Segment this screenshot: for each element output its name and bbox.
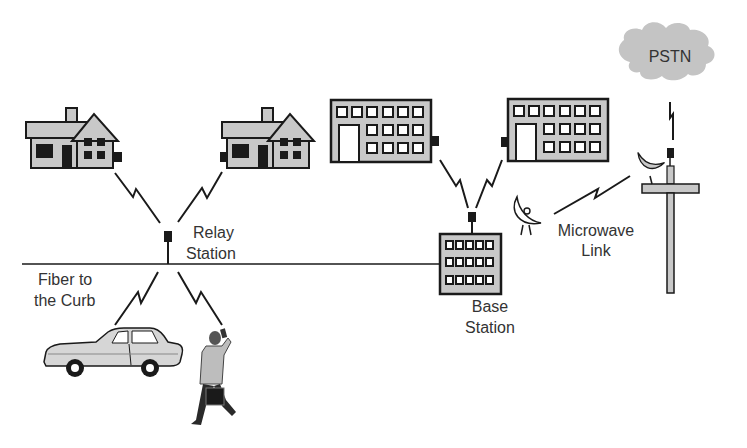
fiber-label-line2: the Curb — [34, 292, 95, 309]
wireless-link-car — [115, 272, 158, 325]
base-station-icon — [440, 212, 501, 294]
network-diagram: Relay Station Fiber to the Curb — [0, 0, 747, 448]
wireless-link-office-right — [476, 160, 502, 208]
wireless-link-office-left — [440, 160, 468, 208]
microwave-link-line — [554, 176, 630, 214]
fiber-label-line1: Fiber to — [38, 271, 92, 288]
wireless-link-house-right — [178, 172, 222, 222]
relay-station-label-line1: Relay — [193, 224, 234, 241]
microwave-tower-icon — [636, 144, 699, 293]
base-station-label-line1: Base — [472, 298, 509, 315]
house-left-icon — [26, 108, 122, 168]
office-building-left-icon — [331, 100, 431, 162]
person-with-phone-icon — [191, 328, 236, 425]
wireless-link-person — [178, 272, 222, 325]
wireless-link-pstn — [670, 102, 673, 140]
relay-antenna-icon — [164, 231, 172, 264]
house-right-icon — [220, 108, 314, 168]
relay-station-label-line2: Station — [186, 245, 236, 262]
microwave-label-line2: Link — [581, 242, 611, 259]
pstn-label: PSTN — [649, 48, 692, 65]
office-building-right-icon — [508, 99, 608, 161]
car-icon — [44, 328, 183, 377]
base-station-label-line2: Station — [465, 319, 515, 336]
wireless-link-house-left — [115, 173, 160, 223]
satellite-dish-icon — [514, 197, 541, 235]
microwave-label-line1: Microwave — [558, 222, 635, 239]
